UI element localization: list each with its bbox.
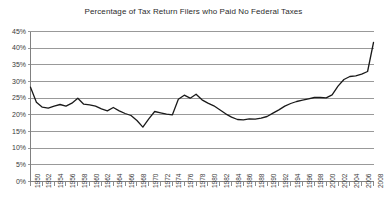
x-tick-label: 1962 (104, 173, 111, 187)
x-tick-label: 1988 (258, 173, 265, 187)
x-tick-label: 2000 (329, 173, 336, 187)
x-tick-label: 1970 (152, 173, 159, 187)
y-tick-label: 30% (0, 78, 26, 85)
x-tick-label: 1952 (45, 173, 52, 187)
x-tick-label: 1996 (306, 173, 313, 187)
x-tick-label: 2008 (377, 173, 384, 187)
x-tick-label: 1964 (116, 173, 123, 187)
x-tick-label: 1956 (69, 173, 76, 187)
x-tick-label: 1960 (93, 173, 100, 187)
x-tick-label: 1976 (187, 173, 194, 187)
x-tick-label: 1978 (199, 173, 206, 187)
y-tick-label: 45% (0, 28, 26, 35)
axis-group (31, 32, 374, 182)
y-tick-label: 0% (0, 178, 26, 185)
x-tick-label: 1982 (223, 173, 230, 187)
x-tick-label: 1986 (246, 173, 253, 187)
x-tick-label: 1980 (211, 173, 218, 187)
x-tick-label: 1950 (34, 173, 41, 187)
x-tick-label: 1954 (57, 173, 64, 187)
gridlines-group (28, 32, 374, 182)
chart-canvas (0, 0, 387, 224)
y-tick-label: 40% (0, 44, 26, 51)
x-tick-label: 1992 (282, 173, 289, 187)
y-tick-label: 35% (0, 61, 26, 68)
x-tick-label: 1994 (294, 173, 301, 187)
x-tick-label: 1958 (81, 173, 88, 187)
y-tick-label: 25% (0, 94, 26, 101)
x-tick-label: 2006 (365, 173, 372, 187)
x-tick-label: 1972 (164, 173, 171, 187)
x-tick-label: 1968 (140, 173, 147, 187)
x-tick-label: 2002 (341, 173, 348, 187)
y-tick-label: 10% (0, 144, 26, 151)
x-tick-label: 1990 (270, 173, 277, 187)
x-tick-label: 1966 (128, 173, 135, 187)
x-tick-label: 1974 (175, 173, 182, 187)
y-tick-label: 15% (0, 128, 26, 135)
plot-area: 0%5%10%15%20%25%30%35%40%45% 19501952195… (0, 0, 387, 224)
x-tick-label: 1998 (317, 173, 324, 187)
x-tick-label: 1984 (235, 173, 242, 187)
x-tick-label: 2004 (353, 173, 360, 187)
y-tick-label: 20% (0, 111, 26, 118)
chart-container: Percentage of Tax Return Filers who Paid… (0, 0, 387, 224)
y-tick-label: 5% (0, 161, 26, 168)
